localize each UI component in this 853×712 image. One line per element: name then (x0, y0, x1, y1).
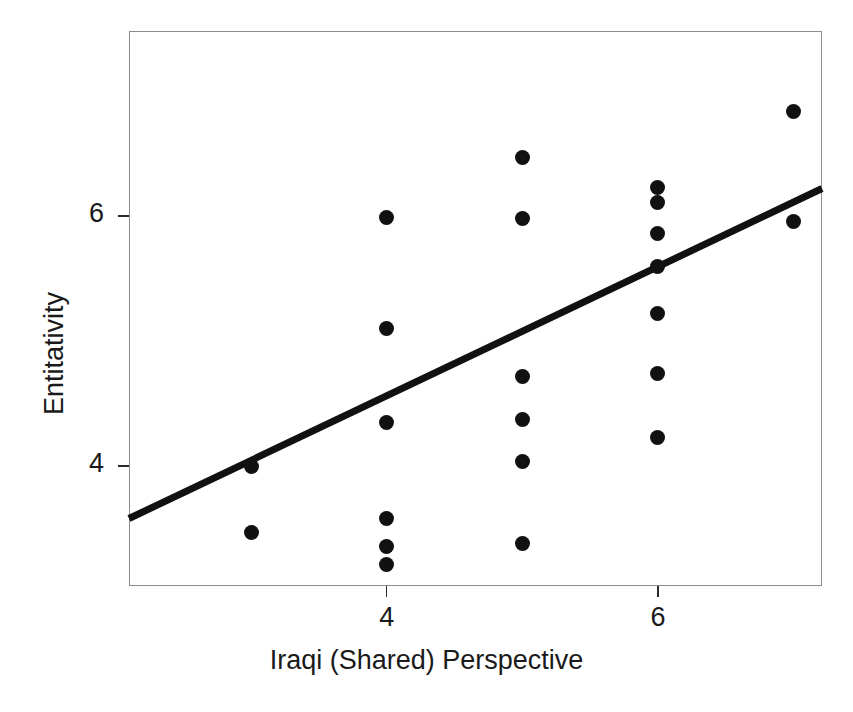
data-point (786, 214, 801, 229)
y-axis-title-wrapper: Entitativity (14, 270, 84, 440)
y-axis-title: Entitativity (39, 269, 70, 439)
data-point (515, 536, 530, 551)
x-axis-title: Iraqi (Shared) Perspective (0, 645, 853, 676)
data-point (650, 259, 665, 274)
data-point (379, 321, 394, 336)
y-axis-tick-label: 4 (64, 448, 104, 479)
x-axis-tick-label: 6 (638, 602, 678, 633)
regression-line (129, 31, 822, 586)
data-point (650, 366, 665, 381)
data-point (650, 430, 665, 445)
data-point (515, 211, 530, 226)
data-point (379, 511, 394, 526)
data-point (379, 210, 394, 225)
data-point (244, 459, 259, 474)
y-axis-tick (118, 465, 129, 467)
data-point (650, 195, 665, 210)
x-axis-tick (657, 586, 659, 597)
data-point (650, 226, 665, 241)
data-point (515, 454, 530, 469)
y-axis-tick (118, 215, 129, 217)
x-axis-tick-label: 4 (367, 602, 407, 633)
data-point (379, 415, 394, 430)
data-point (515, 150, 530, 165)
data-point (786, 104, 801, 119)
data-point (379, 539, 394, 554)
data-point (650, 306, 665, 321)
scatter-plot-figure: 6446 Iraqi (Shared) Perspective Entitati… (0, 0, 853, 712)
plot-canvas (129, 31, 822, 586)
y-axis-tick-label: 6 (64, 198, 104, 229)
data-point (244, 525, 259, 540)
data-point (515, 412, 530, 427)
data-point (379, 557, 394, 572)
data-point (650, 180, 665, 195)
x-axis-tick (386, 586, 388, 597)
data-point (515, 369, 530, 384)
